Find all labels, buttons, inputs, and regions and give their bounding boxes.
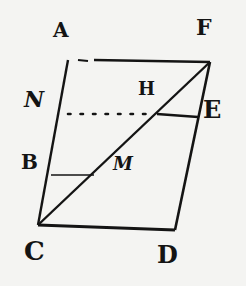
segment-af [94, 60, 210, 62]
label-f: F [196, 16, 212, 38]
label-n: N [24, 88, 44, 110]
label-c: C [24, 238, 45, 264]
segment-af-left-fragment [78, 60, 88, 61]
label-e: E [203, 98, 221, 122]
segment-cd [38, 225, 175, 230]
segment-fd [175, 62, 210, 230]
label-h: H [138, 80, 155, 98]
label-m: M [113, 155, 133, 173]
label-a: A [53, 20, 69, 40]
segment-he [157, 114, 198, 117]
label-b: B [21, 152, 38, 172]
label-d: D [157, 243, 178, 267]
